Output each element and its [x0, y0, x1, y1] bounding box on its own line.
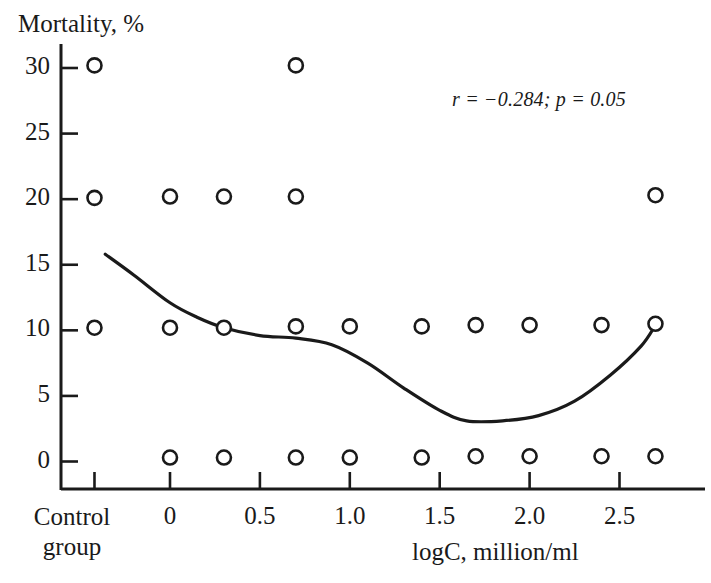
plot-canvas [0, 0, 711, 583]
y-axis-tick-label: 20 [4, 183, 50, 211]
axis-lines [61, 44, 705, 490]
y-axis-tick-label: 15 [4, 249, 50, 277]
data-point-marker [595, 449, 609, 463]
y-axis-tick-label: 25 [4, 118, 50, 146]
data-point-marker [343, 319, 357, 333]
data-point-marker [163, 321, 177, 335]
data-point-marker [415, 319, 429, 333]
data-point-marker [648, 317, 662, 331]
data-point-marker [523, 318, 537, 332]
data-point-marker [163, 451, 177, 465]
x-axis-tick-label: 1.0 [315, 502, 385, 530]
data-point-marker [595, 318, 609, 332]
x-axis-tick-label: 1.5 [405, 502, 475, 530]
data-point-marker [648, 449, 662, 463]
trend-curve [105, 254, 655, 422]
x-axis-tick-marks [94, 472, 619, 489]
data-point-marker [87, 321, 101, 335]
x-axis-tick-label: 0.5 [225, 502, 295, 530]
y-axis-tick-label: 10 [4, 314, 50, 342]
data-point-marker [469, 449, 483, 463]
mortality-scatter-figure: Mortality, % logC, million/ml r = −0.284… [0, 0, 711, 583]
data-point-marker [217, 190, 231, 204]
data-point-marker [87, 191, 101, 205]
data-point-marker [343, 451, 357, 465]
y-axis-tick-marks [61, 68, 78, 462]
y-axis-tick-label: 5 [4, 380, 50, 408]
data-point-markers [87, 58, 662, 464]
data-point-marker [415, 451, 429, 465]
data-point-marker [289, 190, 303, 204]
y-axis-tick-label: 30 [4, 52, 50, 80]
data-point-marker [217, 451, 231, 465]
data-point-marker [289, 319, 303, 333]
x-axis-tick-label: 2.0 [495, 502, 565, 530]
data-point-marker [289, 58, 303, 72]
data-point-marker [289, 451, 303, 465]
trend-curve-path [105, 254, 655, 422]
data-point-marker [648, 188, 662, 202]
data-point-marker [523, 449, 537, 463]
data-point-marker [163, 190, 177, 204]
x-axis-tick-label: 2.5 [585, 502, 655, 530]
x-axis-tick-label: 0 [135, 502, 205, 530]
y-axis-tick-label: 0 [4, 446, 50, 474]
data-point-marker [217, 321, 231, 335]
data-point-marker [87, 58, 101, 72]
data-point-marker [469, 318, 483, 332]
